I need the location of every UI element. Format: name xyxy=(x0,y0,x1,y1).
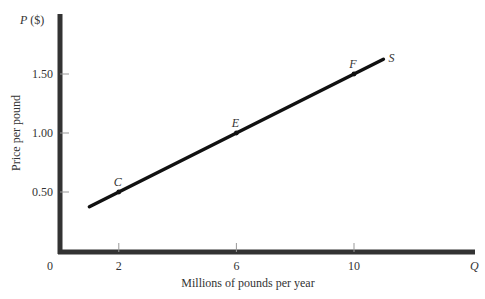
point-f xyxy=(352,72,357,77)
x-ticks: 2610 xyxy=(116,243,360,273)
x-tick-label: 6 xyxy=(233,259,239,273)
y-tick-label: 0.50 xyxy=(32,185,53,199)
y-ticks: 0.501.001.50 xyxy=(32,67,69,199)
x-axis-title: Millions of pounds per year xyxy=(181,276,314,290)
y-axis-symbol-unit: ($) xyxy=(27,13,44,27)
x-axis-symbol: Q xyxy=(470,259,479,273)
supply-curve-chart: 0.501.001.50 2610 S CEF P ($) Q 0 Millio… xyxy=(0,0,485,299)
point-e xyxy=(234,131,239,136)
y-tick-label: 1.00 xyxy=(32,126,53,140)
origin-label: 0 xyxy=(47,259,53,273)
point-c xyxy=(116,190,121,195)
point-label-e: E xyxy=(231,116,240,130)
y-axis-title: Price per pound xyxy=(9,95,23,171)
y-tick-label: 1.50 xyxy=(32,67,53,81)
x-tick-label: 2 xyxy=(116,259,122,273)
data-points: CEF xyxy=(114,57,358,194)
supply-curve-label: S xyxy=(388,51,394,65)
x-tick-label: 10 xyxy=(348,259,360,273)
point-label-c: C xyxy=(114,175,123,189)
y-axis-symbol: P ($) xyxy=(19,13,44,27)
point-label-f: F xyxy=(348,57,357,71)
